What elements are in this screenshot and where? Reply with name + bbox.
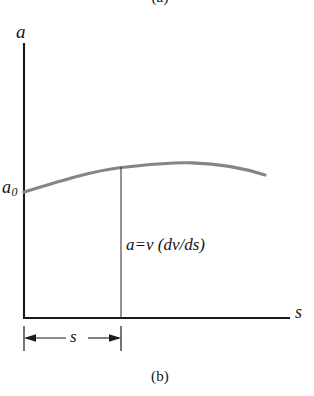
acceleration-position-chart — [0, 0, 314, 396]
dimension-arrowhead-right — [109, 334, 121, 342]
acceleration-curve — [24, 163, 265, 192]
initial-acceleration-symbol: a — [2, 177, 11, 197]
dimension-length-label: s — [70, 328, 77, 345]
initial-acceleration-subscript: 0 — [12, 185, 18, 199]
initial-acceleration-label: a0 — [2, 178, 18, 198]
equation-annotation-label: a=v (dv/ds) — [126, 236, 205, 253]
dimension-arrowhead-left — [24, 334, 36, 342]
y-axis-label: a — [16, 22, 26, 41]
x-axis-label: s — [295, 303, 302, 321]
figure-caption-b: (b) — [3, 368, 314, 385]
figure-container: (a) a s a0 a=v (dv/ds) s (b) — [0, 0, 314, 396]
